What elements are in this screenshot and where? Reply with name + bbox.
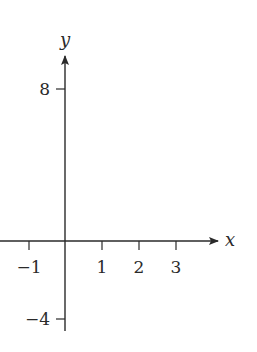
x-tick-label-3: 3 <box>171 257 182 277</box>
y-tick-label-8: 8 <box>39 79 50 99</box>
x-tick-label-2: 2 <box>134 257 145 277</box>
coordinate-plane: −1 1 2 3 8 −4 x y <box>0 0 257 352</box>
y-axis-label: y <box>59 29 71 50</box>
y-tick-label--4: −4 <box>25 309 50 329</box>
x-tick-label-1: 1 <box>97 257 108 277</box>
x-ticks <box>29 241 176 250</box>
x-axis-label: x <box>225 229 235 250</box>
x-tick-label--1: −1 <box>16 257 41 277</box>
y-ticks <box>56 89 65 319</box>
